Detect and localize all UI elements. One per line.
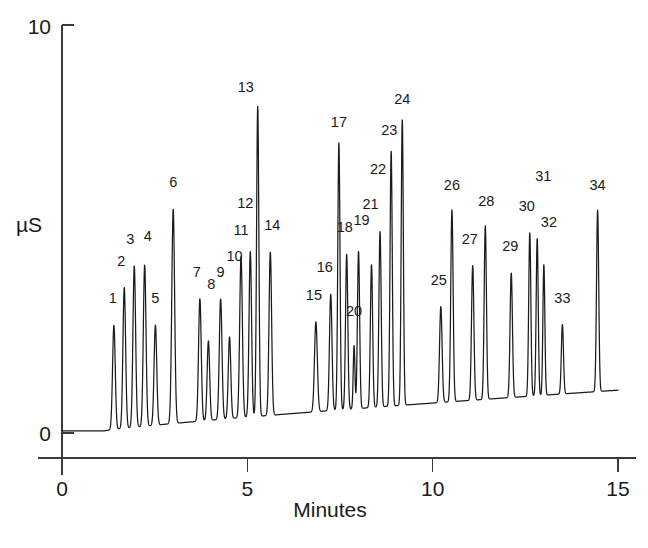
peak-label-30: 30: [519, 198, 535, 214]
peak-label-34: 34: [590, 177, 606, 193]
peak-label-10: 10: [226, 248, 242, 264]
x-tick-label-5: 5: [241, 477, 253, 500]
y-axis-bottom-label: 0: [39, 422, 51, 445]
chromatogram-plot: 051015 123456789101112131415161718192021…: [0, 0, 648, 548]
peak-label-22: 22: [370, 161, 386, 177]
peak-label-33: 33: [554, 290, 570, 306]
peak-label-5: 5: [151, 290, 159, 306]
peak-label-15: 15: [306, 287, 322, 303]
peak-label-2: 2: [117, 253, 125, 269]
peak-label-27: 27: [462, 231, 478, 247]
peak-label-6: 6: [169, 174, 177, 190]
y-axis-top-label: 10: [28, 15, 51, 38]
peak-label-18: 18: [337, 219, 353, 235]
peak-label-9: 9: [217, 264, 225, 280]
peak-label-7: 7: [193, 264, 201, 280]
trace-group: [62, 106, 618, 431]
x-tick-label-0: 0: [56, 477, 68, 500]
peak-label-16: 16: [317, 259, 333, 275]
axis-text-group: 10 0 µS Minutes: [16, 15, 367, 521]
axes-group: [38, 25, 636, 475]
peak-label-1: 1: [109, 290, 117, 306]
peak-label-13: 13: [238, 79, 254, 95]
x-axis-title: Minutes: [293, 498, 367, 521]
chromatogram-trace: [62, 106, 618, 431]
peak-label-25: 25: [431, 272, 447, 288]
peak-label-23: 23: [381, 122, 397, 138]
peak-label-20: 20: [346, 303, 362, 319]
x-ticks-group: 051015: [56, 458, 630, 500]
peak-label-31: 31: [535, 168, 551, 184]
peak-label-3: 3: [126, 231, 134, 247]
peak-label-4: 4: [144, 228, 152, 244]
y-axis-title: µS: [16, 213, 42, 236]
peak-label-24: 24: [394, 91, 410, 107]
x-tick-label-15: 15: [606, 477, 629, 500]
peak-label-11: 11: [233, 222, 248, 238]
peak-label-32: 32: [541, 214, 557, 230]
peak-label-17: 17: [331, 114, 347, 130]
peak-label-8: 8: [207, 276, 215, 292]
peak-label-21: 21: [362, 196, 378, 212]
chromatogram-figure: 051015 123456789101112131415161718192021…: [0, 0, 648, 548]
peak-label-19: 19: [353, 212, 369, 228]
peak-label-12: 12: [237, 195, 253, 211]
peak-label-14: 14: [264, 217, 280, 233]
peak-label-26: 26: [444, 177, 460, 193]
peak-label-29: 29: [502, 238, 518, 254]
x-tick-label-10: 10: [421, 477, 444, 500]
peak-label-28: 28: [478, 193, 494, 209]
